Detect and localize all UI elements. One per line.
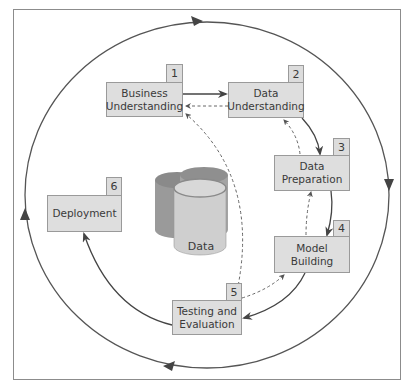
step-1-business-understanding[interactable]: Business Understanding <box>106 82 183 117</box>
step-4-model-building[interactable]: Model Building <box>274 236 350 273</box>
flow-2-to-3 <box>302 118 320 154</box>
step-5-label: Testing and Evaluation <box>177 305 237 331</box>
flow-3-to-4 <box>327 191 332 235</box>
arrow-left-icon <box>163 361 175 371</box>
step-3-data-preparation[interactable]: Data Preparation <box>274 155 350 191</box>
step-6-deployment[interactable]: Deployment <box>47 195 122 232</box>
data-store-label: Data <box>176 240 226 253</box>
step-3-number: 3 <box>333 138 350 155</box>
arrow-up-icon <box>20 208 30 220</box>
step-4-number: 4 <box>333 220 350 236</box>
step-5-testing-and-evaluation[interactable]: Testing and Evaluation <box>172 300 242 335</box>
step-6-number: 6 <box>106 177 122 195</box>
step-6-label: Deployment <box>52 207 116 220</box>
step-5-number: 5 <box>226 283 242 300</box>
arrow-right-icon <box>191 16 203 26</box>
feedback-4-to-3 <box>306 192 311 235</box>
step-2-number: 2 <box>288 65 304 82</box>
arrow-down-icon <box>384 179 394 191</box>
step-2-label: Data Understanding <box>227 87 304 113</box>
flow-5-to-6 <box>84 234 172 325</box>
step-1-number: 1 <box>166 64 183 82</box>
feedback-5-to-4 <box>242 275 284 298</box>
step-1-label: Business Understanding <box>106 87 183 113</box>
feedback-3-to-2 <box>284 120 300 154</box>
flow-4-to-5 <box>244 273 305 318</box>
step-3-label: Data Preparation <box>282 160 343 186</box>
step-4-label: Model Building <box>291 242 334 268</box>
step-2-data-understanding[interactable]: Data Understanding <box>228 82 304 118</box>
